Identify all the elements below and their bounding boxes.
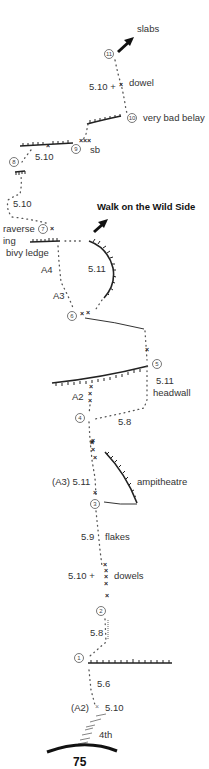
- bolt-icon: ×: [46, 142, 50, 149]
- route-arrow-icon: [94, 219, 108, 232]
- ledge-line: [85, 318, 144, 329]
- roof-symbol: [15, 171, 25, 175]
- route-pitch-3: [96, 511, 102, 566]
- label-ampitheatre: ampitheatre: [137, 476, 187, 487]
- bolt-icon: ×: [91, 446, 95, 453]
- bolt-icon: ×: [80, 310, 84, 317]
- bolt-icon: ×: [89, 383, 93, 390]
- belay-station-11: 11: [105, 50, 114, 59]
- ampitheatre-base-line: [104, 502, 137, 504]
- bolt-icon: ×: [50, 225, 54, 232]
- bolt-icon: ×: [91, 437, 95, 444]
- bolt-icon: ×: [93, 489, 97, 496]
- label-start-grade: 5.10: [105, 702, 124, 713]
- route-arch-dots: [96, 300, 102, 309]
- route-a2-dots: [89, 405, 90, 414]
- bolt-icon: ×: [88, 397, 92, 404]
- svg-text:11: 11: [106, 51, 113, 57]
- bolt-icon: ×: [95, 703, 99, 710]
- label-p3-grade: (A3) 5.11: [52, 476, 90, 487]
- bolt-icon: ×: [86, 309, 90, 316]
- roof-symbol: [30, 238, 60, 242]
- label-flakes: flakes: [105, 531, 130, 542]
- label-walk-on-the-wild-side: Walk on the Wild Side: [97, 201, 195, 212]
- label-a2: A2: [72, 391, 84, 402]
- label-ing: ing: [3, 235, 16, 246]
- label-fourth-class: 4th: [99, 729, 112, 740]
- svg-text:10: 10: [129, 115, 136, 121]
- belay-station-2: 2: [97, 607, 106, 616]
- label-p8-grade: 5.10: [13, 198, 32, 209]
- label-p2-grade: 5.10 +: [68, 570, 95, 581]
- label-dowel: dowel: [129, 77, 154, 88]
- label-very-bad-belay: very bad belay: [143, 112, 205, 123]
- ampitheatre-roof-symbol: [105, 452, 137, 503]
- ground-line: [47, 745, 117, 752]
- route-pitch-1: [89, 670, 95, 705]
- label-p2b-grade: 5.9: [81, 531, 94, 542]
- belay-station-4: 4: [76, 414, 85, 423]
- label-p5-grade: 5.11: [156, 375, 174, 386]
- belay-station-3: 3: [91, 500, 100, 509]
- roof-symbol: [87, 114, 121, 124]
- route-pitch-5: [95, 366, 147, 419]
- label-headwall: headwall: [153, 387, 191, 398]
- belay-station-1: 1: [75, 654, 84, 663]
- label-p7-grade-5-11: 5.11: [88, 263, 106, 274]
- belay-station-5: 5: [153, 360, 162, 369]
- bolt-icon: ×: [119, 81, 123, 88]
- route-pitch-11: [115, 60, 128, 116]
- label-traverse: raverse: [3, 223, 35, 234]
- roof-symbol: [52, 366, 148, 386]
- label-p4-grade: 5.8: [118, 416, 131, 427]
- belay-station-8: 8: [10, 158, 19, 167]
- route-pitch-9: [22, 150, 31, 162]
- route-topo-diagram: slabs × 5.10 + dowel very bad belay × × …: [0, 0, 209, 769]
- label-bivy-ledge: bivy ledge: [6, 247, 49, 258]
- label-p9-grade: 5.10: [35, 151, 54, 162]
- label-a3: A3: [53, 290, 65, 301]
- label-sb: sb: [90, 144, 100, 155]
- label-p11-grade: 5.10 +: [89, 81, 116, 92]
- bolt-icon: ×: [105, 592, 109, 599]
- roof-symbol: [88, 659, 172, 663]
- bolt-icon: ×: [87, 137, 91, 144]
- belay-station-9: 9: [72, 145, 81, 154]
- label-start-aid: (A2): [71, 702, 89, 713]
- bolt-icon: ×: [93, 454, 97, 461]
- label-slabs: slabs: [137, 23, 159, 34]
- page-number: 75: [73, 755, 87, 769]
- label-dowels: dowels: [114, 570, 144, 581]
- bolt-icon: ×: [88, 390, 92, 397]
- exit-arrow-icon: [118, 37, 134, 52]
- belay-station-7: 7: [39, 225, 48, 234]
- belay-station-6: 6: [68, 312, 77, 321]
- belay-station-10: 10: [128, 114, 137, 123]
- label-p1b-grade: 5.8: [90, 627, 103, 638]
- label-a4: A4: [41, 264, 53, 275]
- bolt-icon: ×: [104, 573, 108, 580]
- bolt-icon: ×: [145, 346, 149, 353]
- bolt-icon: ×: [104, 580, 108, 587]
- label-p1-grade: 5.6: [97, 678, 110, 689]
